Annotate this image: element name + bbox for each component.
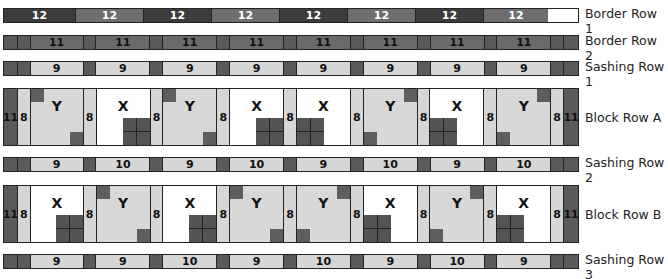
vertical-sashing: 8 — [351, 186, 364, 242]
sashing-segment: 9 — [297, 62, 351, 75]
border-2-segment: 11 — [297, 36, 351, 49]
cornerstone — [217, 158, 230, 171]
cornerstone — [351, 62, 364, 75]
cornerstone — [485, 255, 498, 268]
block-letter: X — [297, 98, 350, 114]
block-letter: Y — [97, 195, 150, 211]
border-1-segment: 12 — [484, 9, 548, 22]
block-y: Y — [97, 186, 151, 242]
cornerstone — [217, 62, 230, 75]
cornerstone — [418, 36, 431, 49]
cornerstone — [351, 158, 364, 171]
cornerstone — [284, 62, 297, 75]
block-x: X — [163, 186, 217, 242]
cornerstone — [418, 255, 431, 268]
corner-square — [564, 62, 578, 75]
vertical-sashing: 8 — [418, 89, 431, 145]
four-patch — [123, 118, 150, 145]
block-letter: Y — [163, 98, 216, 114]
border-1-segment: 12 — [144, 9, 212, 22]
sashing-segment: 9 — [163, 62, 217, 75]
sashing-segment: 10 — [297, 255, 351, 268]
cornerstone — [485, 62, 498, 75]
sashing-segment: 9 — [230, 62, 284, 75]
block-y: Y — [297, 186, 351, 242]
block-x: X — [430, 89, 484, 145]
block-letter: Y — [230, 195, 283, 211]
block-letter: Y — [364, 98, 417, 114]
cornerstone — [351, 36, 364, 49]
sashing-row-1-label: Sashing Row 1 — [585, 59, 668, 89]
corner-patch — [203, 132, 216, 145]
sashing-segment: 9 — [364, 255, 418, 268]
corner-square — [564, 36, 578, 49]
sashing-segment: 9 — [497, 255, 551, 268]
corner-patch — [297, 229, 310, 242]
four-patch — [497, 215, 524, 242]
four-patch — [189, 215, 216, 242]
cornerstone — [551, 158, 564, 171]
sashing-segment: 10 — [230, 158, 284, 171]
sashing-segment: 9 — [96, 62, 150, 75]
block-letter: X — [97, 98, 150, 114]
cornerstone — [551, 62, 564, 75]
block-x: X — [31, 186, 84, 242]
corner-patch — [70, 132, 83, 145]
block-x: X — [97, 89, 151, 145]
block-x: X — [364, 186, 418, 242]
block-letter: X — [163, 195, 216, 211]
sashing-row-3-label: Sashing Row 3 — [585, 252, 668, 279]
block-letter: X — [430, 98, 483, 114]
sashing-segment: 9 — [497, 62, 551, 75]
border-2-segment: 11 — [230, 36, 284, 49]
block-letter: Y — [430, 195, 483, 211]
side-border-right: 11 — [564, 89, 578, 145]
cornerstone — [351, 255, 364, 268]
block-y: Y — [31, 89, 84, 145]
block-y: Y — [364, 89, 418, 145]
sashing-segment: 10 — [431, 255, 485, 268]
sashing-segment: 9 — [297, 158, 351, 171]
sashing-row-1: 9 9 9 9 9 9 9 9 — [3, 61, 579, 76]
sashing-row-3: 9 9 10 9 10 9 10 9 — [3, 254, 579, 269]
four-patch — [256, 118, 283, 145]
corner-square — [564, 255, 578, 268]
vertical-sashing: 8 — [351, 89, 364, 145]
block-letter: X — [364, 195, 417, 211]
block-row-a: 11 8 Y 8 X 8 Y 8 X 8 X 8 Y 8 X 8 Y 8 11 — [3, 88, 579, 146]
vertical-sashing: 8 — [151, 89, 164, 145]
corner-square — [4, 36, 18, 49]
block-y: Y — [163, 89, 217, 145]
vertical-sashing: 8 — [217, 186, 230, 242]
block-letter: Y — [31, 98, 83, 114]
cornerstone — [551, 255, 564, 268]
block-row-b-label: Block Row B — [585, 207, 661, 222]
sashing-segment: 9 — [364, 62, 418, 75]
cornerstone — [284, 36, 297, 49]
cornerstone — [485, 158, 498, 171]
border-2-segment: 11 — [31, 36, 84, 49]
vertical-sashing: 8 — [18, 89, 31, 145]
corner-patch — [270, 229, 283, 242]
cornerstone — [84, 62, 97, 75]
four-patch — [430, 118, 457, 145]
cornerstone — [18, 62, 31, 75]
sashing-row-2: 9 10 9 10 9 10 9 10 — [3, 157, 579, 172]
sashing-segment: 9 — [31, 255, 84, 268]
four-patch — [297, 118, 324, 145]
corner-square — [4, 158, 18, 171]
border-1-segment: 12 — [4, 9, 76, 22]
sashing-segment: 10 — [364, 158, 418, 171]
block-row-a-label: Block Row A — [585, 110, 661, 125]
sashing-segment: 9 — [163, 158, 217, 171]
border-row-1-label: Border Row 1 — [585, 6, 668, 36]
block-y: Y — [230, 186, 284, 242]
border-1-segment: 12 — [76, 9, 144, 22]
corner-square — [18, 36, 31, 49]
sashing-segment: 9 — [431, 62, 485, 75]
sashing-segment: 10 — [497, 158, 551, 171]
vertical-sashing: 8 — [284, 89, 297, 145]
side-border-left: 11 — [4, 186, 18, 242]
side-border-right: 11 — [564, 186, 578, 242]
vertical-sashing: 8 — [551, 186, 564, 242]
